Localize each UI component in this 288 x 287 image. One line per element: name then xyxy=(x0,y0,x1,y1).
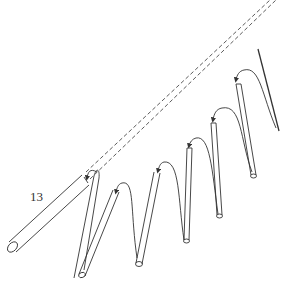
curved-arrow xyxy=(189,138,218,214)
pole-illustration xyxy=(0,0,288,287)
segment-3 xyxy=(136,172,161,267)
curved-arrow xyxy=(158,162,184,240)
segment-tip xyxy=(258,49,279,131)
pole-diagram: 13 xyxy=(0,0,288,287)
segment-main xyxy=(5,175,89,254)
part-label: 13 xyxy=(30,189,43,205)
curved-arrow xyxy=(116,183,137,258)
segment-2 xyxy=(74,170,119,278)
segment-4 xyxy=(184,148,193,243)
segment-6 xyxy=(236,84,257,178)
